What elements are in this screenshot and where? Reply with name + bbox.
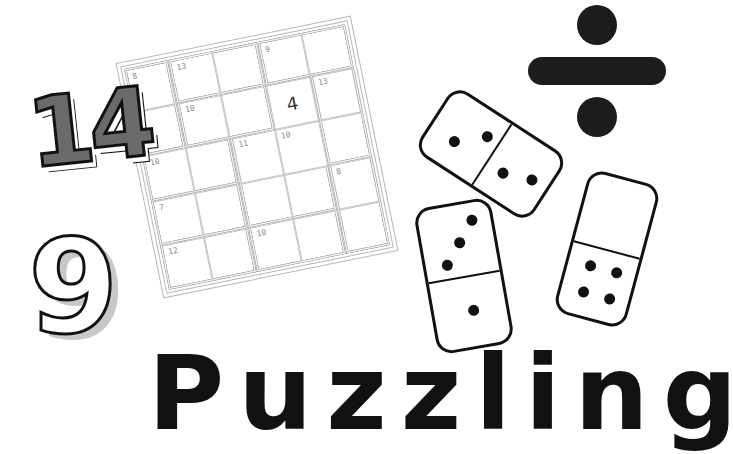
division-bar <box>528 57 666 85</box>
cage-clue: 12 <box>167 246 178 257</box>
killer-sudoku-grid: 8 13 9 10 4 13 10 11 10 7 8 12 10 <box>115 15 398 298</box>
cage-clue: 10 <box>184 104 195 115</box>
pip <box>603 292 616 305</box>
number-14-graphic: 14 <box>23 74 154 182</box>
pip <box>584 259 597 272</box>
cage-clue: 10 <box>256 228 267 239</box>
pip <box>467 304 480 317</box>
cage-clue: 8 <box>335 166 342 176</box>
division-dot-bottom <box>577 97 617 137</box>
page-title: Puzzling <box>148 332 733 454</box>
pip <box>447 134 462 149</box>
pip <box>480 129 495 144</box>
cage-clue: 7 <box>158 202 165 212</box>
cage-clue: 11 <box>238 139 249 150</box>
pip <box>453 236 466 249</box>
pip <box>466 214 479 227</box>
cage-clue: 10 <box>280 130 291 141</box>
given-value: 4 <box>267 78 318 129</box>
pip <box>441 259 454 272</box>
grid-cell <box>337 201 390 254</box>
number-9-graphic: 9 <box>28 222 118 352</box>
cage-clue: 13 <box>317 77 328 88</box>
domino-2-2-icon <box>413 84 570 223</box>
grid-cells: 8 13 9 10 4 13 10 11 10 7 8 12 10 <box>124 24 391 291</box>
pip <box>495 166 510 181</box>
division-dot-top <box>577 5 617 45</box>
pip <box>610 266 623 279</box>
pip <box>577 285 590 298</box>
domino-0-4-icon <box>552 168 662 330</box>
pip <box>524 172 539 187</box>
cage-clue: 13 <box>176 61 187 72</box>
cage-clue: 9 <box>264 44 271 54</box>
